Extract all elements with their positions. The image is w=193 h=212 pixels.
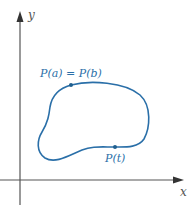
point-general-label: P(t) [104,152,125,165]
x-axis-arrow-icon [173,177,184,184]
point-start-end-label: P(a) = P(b) [39,67,102,80]
closed-curve [38,82,149,160]
x-axis-label: x [180,185,187,199]
point-start-end-dot [69,83,73,87]
point-general-dot [113,145,117,149]
y-axis-arrow-icon [17,11,24,22]
diagram-canvas: y x P(a) = P(b) P(t) [0,0,193,212]
y-axis-label: y [27,8,35,22]
